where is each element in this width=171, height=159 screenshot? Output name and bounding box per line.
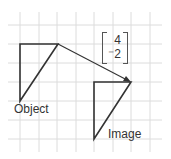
right-bracket	[123, 32, 128, 64]
object-label: Object	[14, 103, 49, 115]
image-label: Image	[108, 128, 141, 140]
translation-vector: 4 ⁻2	[102, 32, 128, 64]
vector-y: ⁻2	[108, 48, 121, 60]
vector-x: 4	[114, 34, 121, 46]
left-bracket	[102, 32, 107, 64]
grid-diagram	[0, 0, 171, 159]
